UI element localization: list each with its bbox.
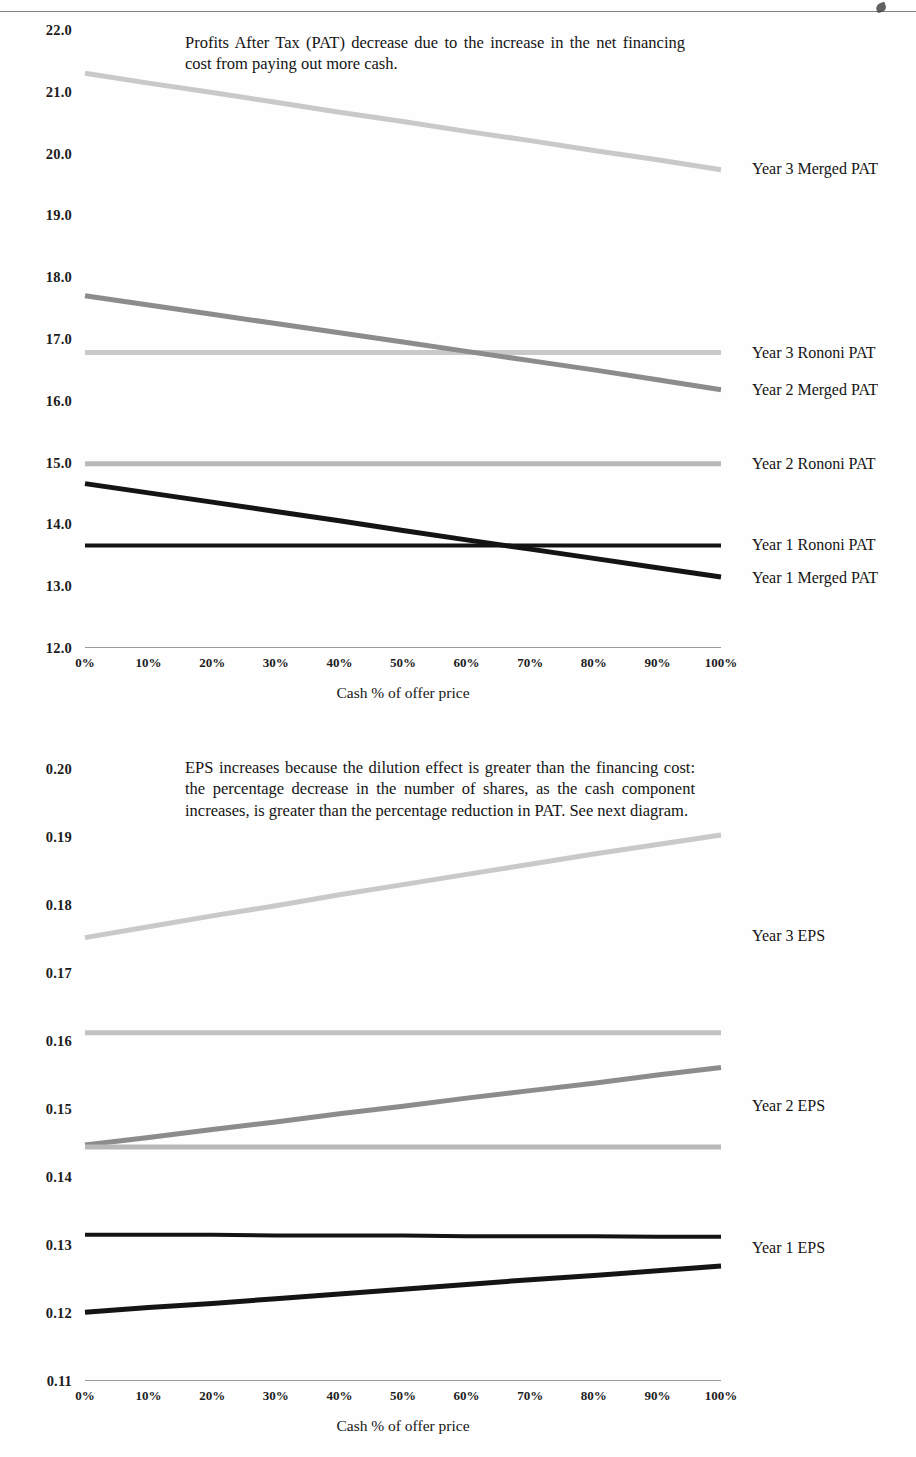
pat-series-label: Year 3 Merged PAT: [752, 160, 878, 178]
pat-x-tick: 80%: [581, 655, 607, 671]
eps-x-tick: 80%: [581, 1388, 607, 1404]
pat-y-tick: 14.0: [46, 516, 72, 533]
pat-series-label: Year 3 Rononi PAT: [752, 344, 876, 362]
pat-x-tick: 90%: [644, 655, 670, 671]
pat-y-tick: 18.0: [46, 269, 72, 286]
eps-x-axis-label: Cash % of offer price: [85, 1417, 721, 1435]
pat-y-tick: 15.0: [46, 454, 72, 471]
pat-y-tick: 13.0: [46, 578, 72, 595]
pat-series-lines: [85, 30, 721, 648]
eps-x-tick: 100%: [705, 1388, 738, 1404]
pat-y-tick: 12.0: [46, 640, 72, 657]
pat-y-tick: 20.0: [46, 145, 72, 162]
eps-series-label: Year 2 EPS: [752, 1097, 825, 1115]
pat-y-tick: 22.0: [46, 22, 72, 39]
eps-y-tick: 0.14: [46, 1169, 72, 1186]
eps-x-tick: 20%: [199, 1388, 225, 1404]
eps-x-tick: 10%: [136, 1388, 162, 1404]
eps-line: [85, 1068, 721, 1146]
eps-y-tick: 0.12: [46, 1305, 72, 1322]
pat-x-tick: 70%: [517, 655, 543, 671]
eps-y-tick: 0.17: [46, 965, 72, 982]
pat-x-axis-label: Cash % of offer price: [85, 684, 721, 702]
scan-rule-top: [0, 11, 916, 12]
pat-series-label: Year 1 Rononi PAT: [752, 536, 876, 554]
pat-line: [85, 296, 721, 390]
pat-x-tick: 20%: [199, 655, 225, 671]
eps-y-tick: 0.11: [47, 1373, 72, 1390]
pat-plot-area: 12.013.014.015.016.017.018.019.020.021.0…: [85, 30, 721, 648]
document-page: Profits After Tax (PAT) decrease due to …: [0, 0, 916, 1457]
pat-series-label: Year 2 Merged PAT: [752, 381, 878, 399]
eps-y-tick: 0.16: [46, 1033, 72, 1050]
eps-y-tick: 0.19: [46, 829, 72, 846]
eps-line: [85, 1266, 721, 1312]
eps-x-tick: 40%: [326, 1388, 352, 1404]
pat-y-tick: 17.0: [46, 331, 72, 348]
eps-x-tick: 50%: [390, 1388, 416, 1404]
eps-line: [85, 1235, 721, 1237]
pat-line: [85, 484, 721, 577]
pat-chart: Profits After Tax (PAT) decrease due to …: [0, 18, 916, 718]
eps-y-tick: 0.13: [46, 1237, 72, 1254]
pat-y-tick: 19.0: [46, 207, 72, 224]
eps-series-label: Year 3 EPS: [752, 927, 825, 945]
pat-x-tick: 30%: [263, 655, 289, 671]
eps-series-lines: [85, 769, 721, 1381]
eps-x-tick: 60%: [454, 1388, 480, 1404]
pat-y-tick: 16.0: [46, 392, 72, 409]
eps-y-tick: 0.20: [46, 761, 72, 778]
eps-x-tick: 0%: [75, 1388, 95, 1404]
pat-x-tick: 0%: [75, 655, 95, 671]
eps-y-tick: 0.15: [46, 1101, 72, 1118]
pat-x-tick: 40%: [326, 655, 352, 671]
pat-x-tick: 100%: [705, 655, 738, 671]
pat-x-tick: 60%: [454, 655, 480, 671]
eps-chart: EPS increases because the dilution effec…: [0, 735, 916, 1457]
pat-series-label: Year 2 Rononi PAT: [752, 455, 876, 473]
eps-line: [85, 835, 721, 938]
eps-plot-area: 0.110.120.130.140.150.160.170.180.190.20…: [85, 769, 721, 1381]
pat-x-tick: 50%: [390, 655, 416, 671]
eps-y-tick: 0.18: [46, 897, 72, 914]
pat-x-tick: 10%: [136, 655, 162, 671]
eps-x-tick: 30%: [263, 1388, 289, 1404]
pat-line: [85, 73, 721, 169]
eps-x-tick: 90%: [644, 1388, 670, 1404]
pat-y-tick: 21.0: [46, 83, 72, 100]
eps-x-tick: 70%: [517, 1388, 543, 1404]
pat-series-label: Year 1 Merged PAT: [752, 569, 878, 587]
eps-series-label: Year 1 EPS: [752, 1239, 825, 1257]
